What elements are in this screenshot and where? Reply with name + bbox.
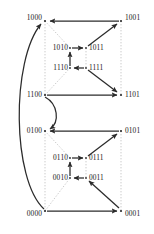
vertex-dot-0111 xyxy=(85,157,87,159)
vertex-dot-0101 xyxy=(120,130,122,132)
edge-0000-to-1000-arc xyxy=(19,24,44,209)
vertex-label-0100: 0100 xyxy=(27,127,42,134)
vertex-label-1110: 1110 xyxy=(53,64,68,71)
vertex-dot-1000 xyxy=(44,20,46,22)
edge-1100-to-0100-scurve xyxy=(45,97,56,129)
vertex-dot-0011 xyxy=(85,177,87,179)
vertex-dot-0110 xyxy=(69,157,71,159)
vertex-dot-0100 xyxy=(44,130,46,132)
vertex-label-0111: 0111 xyxy=(89,154,104,161)
vertex-dot-0001 xyxy=(120,210,122,212)
vertex-label-0011: 0011 xyxy=(89,174,104,181)
vertex-dot-0010 xyxy=(69,177,71,179)
vertex-label-0110: 0110 xyxy=(53,154,68,161)
vertex-label-0010: 0010 xyxy=(53,174,68,181)
solid-edge-group-lower xyxy=(47,131,119,211)
vertex-dot-1010 xyxy=(69,47,71,49)
vertex-label-1011: 1011 xyxy=(89,44,104,51)
vertex-label-0001: 0001 xyxy=(125,210,140,217)
solid-edge-group-upper xyxy=(47,21,119,95)
edge-1111-to-1101 xyxy=(88,70,117,92)
vertex-label-1010: 1010 xyxy=(53,44,68,51)
vertex-label-1000: 1000 xyxy=(27,14,42,21)
vertex-label-1100: 1100 xyxy=(27,91,42,98)
vertex-label-1101: 1101 xyxy=(125,91,140,98)
hypercube-graph xyxy=(0,0,154,234)
vertex-dot-1100 xyxy=(44,94,46,96)
vertex-dot-1001 xyxy=(120,20,122,22)
vertex-dot-1101 xyxy=(120,94,122,96)
curved-edge-group xyxy=(19,24,56,209)
vertex-label-1111: 1111 xyxy=(89,64,103,71)
dotted-edge-0000-0010 xyxy=(45,178,70,211)
vertex-dot-1110 xyxy=(69,67,71,69)
edge-0001-to-0011 xyxy=(89,181,119,208)
vertex-label-0101: 0101 xyxy=(125,127,140,134)
hypercube-figure: 1000100110101011111011111100110101000101… xyxy=(0,0,154,234)
vertex-label-1001: 1001 xyxy=(125,14,140,21)
vertex-dot-0000 xyxy=(44,210,46,212)
vertex-label-0000: 0000 xyxy=(27,210,42,217)
vertex-dot-1011 xyxy=(85,47,87,49)
vertex-dot-1111 xyxy=(85,67,87,69)
